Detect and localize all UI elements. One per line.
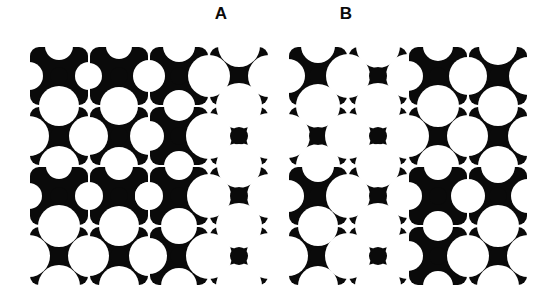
panel-label-b: B — [334, 5, 358, 22]
texture-canvas-b — [288, 46, 528, 288]
figure-root: A B — [0, 0, 554, 302]
texture-panel-b — [288, 46, 528, 288]
texture-canvas-a — [29, 46, 269, 288]
panel-label-a: A — [209, 5, 233, 22]
texture-panel-a — [29, 46, 269, 288]
